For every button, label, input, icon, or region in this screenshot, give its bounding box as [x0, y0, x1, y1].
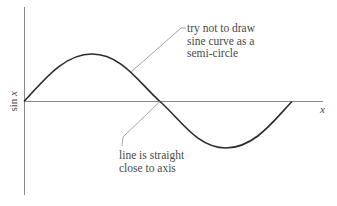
sine-diagram: try not to draw sine curve as a semi-cir…: [0, 0, 337, 206]
y-axis-label-fn: sin: [7, 96, 19, 112]
annotation-semicircle-line1: try not to draw: [187, 22, 255, 35]
annotation-straight-line2: close to axis: [119, 162, 184, 175]
annotation-semicircle-line2: sine curve as a: [187, 35, 255, 48]
diagram-canvas: [0, 0, 337, 206]
annotation-straight-line: line is straight close to axis: [119, 149, 184, 174]
leader-line-top: [131, 28, 186, 72]
y-axis-label-var: x: [7, 91, 19, 96]
leader-line-bottom: [122, 102, 160, 147]
annotation-straight-line1: line is straight: [119, 149, 184, 162]
annotation-semicircle-line3: semi-circle: [187, 47, 255, 60]
y-axis-label: sin x: [7, 86, 20, 116]
x-axis-label: x: [320, 103, 325, 116]
annotation-semicircle: try not to draw sine curve as a semi-cir…: [187, 22, 255, 60]
